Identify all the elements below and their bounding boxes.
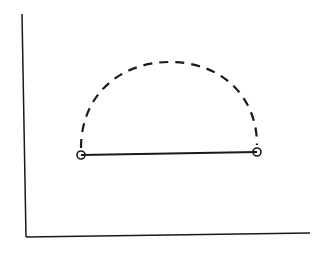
y-axis [22,14,26,237]
x-axis [26,233,310,237]
solid-segment [81,152,257,155]
diagram-canvas [0,0,332,256]
dashed-semicircle-arc [81,62,257,148]
